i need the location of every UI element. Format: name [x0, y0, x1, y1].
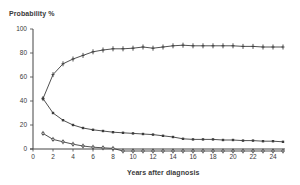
y-tick-label: 0: [23, 145, 27, 152]
square-marker: [172, 136, 174, 138]
square-marker: [52, 112, 54, 114]
square-marker: [62, 119, 64, 121]
x-tick-label: 12: [149, 153, 157, 160]
x-tick-label: 14: [169, 153, 177, 160]
x-tick-label: 20: [229, 153, 237, 160]
x-tick-label: 6: [91, 153, 95, 160]
square-marker: [272, 140, 274, 142]
square-marker: [122, 132, 124, 134]
plot-area: 020406080100024681012141618202224: [0, 0, 300, 185]
square-marker: [112, 131, 114, 133]
chart: Probability % Years after diagnosis 0204…: [0, 0, 300, 185]
x-tick-label: 16: [189, 153, 197, 160]
square-marker: [162, 135, 164, 137]
y-tick-label: 20: [20, 121, 28, 128]
square-marker: [182, 138, 184, 140]
square-marker: [232, 139, 234, 141]
x-tick-label: 0: [31, 153, 35, 160]
square-marker: [282, 141, 284, 143]
square-marker: [142, 133, 144, 135]
square-marker: [192, 138, 194, 140]
x-tick-label: 2: [51, 153, 55, 160]
square-marker: [262, 140, 264, 142]
square-marker: [252, 139, 254, 141]
series-lower: [42, 131, 285, 154]
x-tick-label: 22: [249, 153, 257, 160]
series-layer: [42, 43, 285, 154]
y-tick-label: 100: [16, 25, 27, 32]
square-marker: [212, 138, 214, 140]
y-tick-label: 60: [20, 73, 28, 80]
y-tick-label: 80: [20, 49, 28, 56]
x-tick-label: 18: [209, 153, 217, 160]
series-middle: [42, 97, 284, 143]
series-upper: [42, 43, 285, 101]
x-tick-label: 24: [269, 153, 277, 160]
square-marker: [42, 97, 44, 99]
x-tick-label: 4: [71, 153, 75, 160]
square-marker: [242, 139, 244, 141]
square-marker: [92, 129, 94, 131]
series-line: [43, 45, 283, 98]
x-tick-label: 8: [111, 153, 115, 160]
square-marker: [102, 130, 104, 132]
square-marker: [72, 124, 74, 126]
square-marker: [202, 138, 204, 140]
square-marker: [132, 132, 134, 134]
square-marker: [152, 133, 154, 135]
x-tick-label: 10: [129, 153, 137, 160]
square-marker: [222, 139, 224, 141]
y-tick-label: 40: [20, 97, 28, 104]
square-marker: [82, 127, 84, 129]
